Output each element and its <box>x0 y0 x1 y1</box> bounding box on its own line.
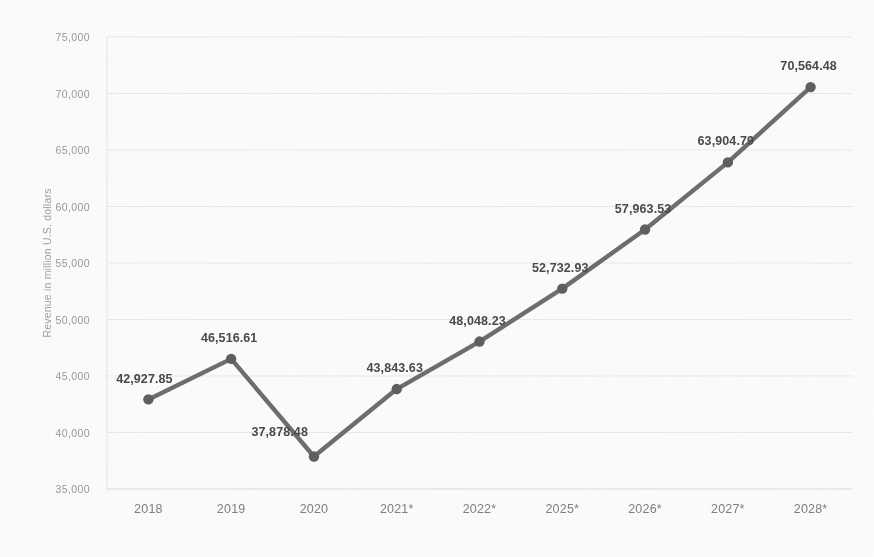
x-axis-tick-label: 2018 <box>134 502 163 516</box>
data-point-marker[interactable] <box>226 354 236 364</box>
y-axis-tick-label: 55,000 <box>55 257 90 269</box>
data-point-value-label: 63,904.79 <box>698 134 755 148</box>
y-axis-tick-label: 70,000 <box>55 88 90 100</box>
data-point-marker[interactable] <box>143 394 153 404</box>
data-point-value-label: 37,878.48 <box>251 425 308 439</box>
gridlines: 35,00040,00045,00050,00055,00060,00065,0… <box>55 31 852 495</box>
data-point-labels: 42,927.8546,516.6137,878.4843,843.6348,0… <box>116 59 837 439</box>
y-axis-tick-label: 65,000 <box>55 144 90 156</box>
x-axis-tick-label: 2027* <box>711 502 745 516</box>
data-point-marker[interactable] <box>640 224 650 234</box>
y-axis-tick-label: 45,000 <box>55 370 90 382</box>
y-axis-tick-label: 50,000 <box>55 314 90 326</box>
data-point-marker[interactable] <box>309 451 319 461</box>
x-axis-tick-label: 2021* <box>380 502 414 516</box>
x-axis-tick-labels: 2018201920202021*2022*2025*2026*2027*202… <box>134 502 827 516</box>
x-axis-tick-label: 2019 <box>217 502 246 516</box>
line-chart: 35,00040,00045,00050,00055,00060,00065,0… <box>0 0 874 557</box>
y-axis-tick-label: 40,000 <box>55 427 90 439</box>
data-point-marker[interactable] <box>392 384 402 394</box>
data-point-value-label: 46,516.61 <box>201 331 258 345</box>
y-axis-tick-label: 75,000 <box>55 31 90 43</box>
data-point-value-label: 57,963.53 <box>615 202 672 216</box>
data-point-value-label: 43,843.63 <box>366 361 423 375</box>
y-axis-title: Revenue in million U.S. dollars <box>41 188 53 337</box>
data-point-marker[interactable] <box>474 336 484 346</box>
x-axis-tick-label: 2022* <box>463 502 497 516</box>
data-point-value-label: 52,732.93 <box>532 261 589 275</box>
x-axis-tick-label: 2026* <box>628 502 662 516</box>
y-axis-tick-label: 35,000 <box>55 483 90 495</box>
data-point-value-label: 42,927.85 <box>116 372 173 386</box>
chart-figure: 35,00040,00045,00050,00055,00060,00065,0… <box>0 0 874 557</box>
x-axis-tick-label: 2025* <box>545 502 579 516</box>
data-point-marker[interactable] <box>723 157 733 167</box>
data-point-value-label: 70,564.48 <box>780 59 837 73</box>
data-point-value-label: 48,048.23 <box>449 314 506 328</box>
y-axis-tick-label: 60,000 <box>55 201 90 213</box>
x-axis-tick-label: 2020 <box>300 502 329 516</box>
data-point-marker[interactable] <box>805 82 815 92</box>
x-axis-tick-label: 2028* <box>794 502 828 516</box>
data-point-marker[interactable] <box>557 283 567 293</box>
